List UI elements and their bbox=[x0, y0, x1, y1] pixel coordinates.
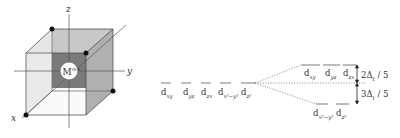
cube-figure: Mm+ z y x bbox=[11, 4, 133, 128]
upper-energy-label: 2Δt / 5 bbox=[361, 70, 388, 82]
orbital-label-dzx: dzx bbox=[201, 87, 213, 99]
orbital-label-upper-dzx: dzx bbox=[343, 68, 355, 80]
ligand-dot bbox=[24, 113, 29, 118]
orbital-label-lower-dx2y2: dx²−y² bbox=[313, 108, 334, 121]
x-axis-label: x bbox=[11, 113, 16, 123]
orbital-label-dyz: dyz bbox=[183, 87, 195, 100]
orbital-label-lower-dz2: dz² bbox=[336, 108, 347, 120]
y-axis-label: y bbox=[126, 66, 133, 76]
orbital-label-upper-dyz: dyz bbox=[325, 68, 337, 81]
ligand-dot bbox=[84, 51, 89, 56]
orbital-label-dx2y2: dx²−y² bbox=[218, 87, 239, 100]
z-axis-label: z bbox=[65, 4, 71, 14]
ligand-dot bbox=[111, 89, 116, 94]
energy-splitting: dxy dyz dzx dx²−y² dz² dxy dyz dzx dx²−y… bbox=[161, 65, 388, 121]
orbital-label-dz2: dz² bbox=[241, 87, 252, 99]
crystal-field-diagram: Mm+ z y x bbox=[0, 0, 400, 138]
lower-energy-label: 3Δt / 5 bbox=[361, 89, 388, 101]
orbital-label-upper-dxy: dxy bbox=[304, 68, 317, 81]
ligand-dot bbox=[50, 27, 55, 32]
orbital-label-dxy: dxy bbox=[161, 87, 174, 100]
